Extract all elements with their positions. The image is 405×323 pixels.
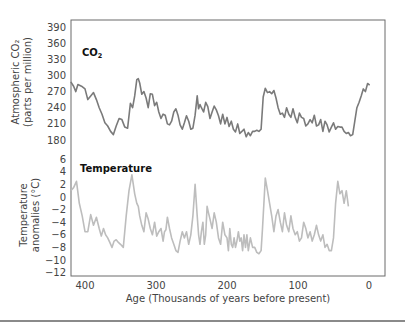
co2-tick-label: 300 [47, 70, 66, 81]
co2-tick-label: 270 [47, 86, 66, 97]
temp-tick-label: −2 [51, 204, 66, 215]
co2-tick-label: 240 [47, 102, 66, 113]
x-tick-label: 200 [217, 280, 236, 291]
ice-core-chart: 390360330300270240210180 6420−2−4−6−8−10… [0, 0, 405, 323]
temp-tick-label: −8 [51, 242, 66, 253]
co2-y-axis-ticks: 390360330300270240210180 [47, 22, 66, 146]
temp-tick-label: −12 [45, 267, 66, 278]
temp-tick-label: 4 [60, 166, 66, 177]
plot-frame [71, 20, 385, 276]
co2-tick-label: 390 [47, 22, 66, 33]
co2-tick-label: 210 [47, 118, 66, 129]
temp-tick-label: −6 [51, 229, 66, 240]
co2-panel-label: CO2 [82, 47, 102, 60]
co2-y-axis-label-line2: (parts per million) [22, 37, 33, 127]
x-tick-label: 0 [366, 280, 372, 291]
bottom-divider [0, 320, 405, 322]
temp-y-axis-label-line2: anomalies (°C) [30, 178, 41, 252]
co2-tick-label: 330 [47, 54, 66, 65]
temp-tick-label: −10 [45, 255, 66, 266]
x-axis-label: Age (Thousands of years before present) [126, 293, 331, 304]
temp-tick-label: −4 [51, 217, 66, 228]
x-axis-ticks: 4003002001000 [75, 280, 372, 291]
co2-tick-label: 180 [47, 135, 66, 146]
x-tick-label: 300 [146, 280, 165, 291]
temp-tick-label: 2 [60, 179, 66, 190]
temp-tick-label: 6 [60, 154, 66, 165]
x-tick-label: 400 [75, 280, 94, 291]
co2-line [71, 79, 370, 137]
temp-y-axis-label-line1: Temperature [18, 183, 29, 247]
temp-y-axis-ticks: 6420−2−4−6−8−10−12 [45, 154, 66, 278]
temp-tick-label: 0 [60, 192, 66, 203]
temperature-panel-label: Temperature [80, 163, 152, 174]
co2-y-axis-label-line1: Atmospheric CO₂ [10, 40, 21, 125]
co2-tick-label: 360 [47, 38, 66, 49]
x-tick-label: 100 [288, 280, 307, 291]
temperature-line [71, 175, 349, 254]
